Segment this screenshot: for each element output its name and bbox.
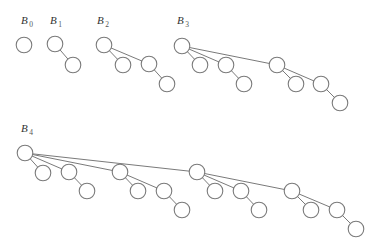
- tree-edge: [25, 153, 197, 172]
- tree-node: [233, 183, 249, 199]
- tree-node: [130, 183, 146, 199]
- tree-label-b4: B4: [21, 122, 33, 137]
- tree-node: [348, 221, 364, 237]
- tree-node: [115, 57, 131, 73]
- tree-label-subscript: 0: [29, 20, 33, 29]
- tree-node: [303, 202, 319, 218]
- tree-label-subscript: 4: [29, 128, 33, 137]
- tree-node: [284, 183, 300, 199]
- tree-node: [65, 57, 81, 73]
- tree-label-b0: B0: [21, 14, 33, 29]
- tree-label-b3: B3: [177, 14, 189, 29]
- tree-label-b2: B2: [97, 14, 109, 29]
- tree-node: [141, 56, 157, 72]
- tree-node: [35, 165, 51, 181]
- tree-node: [288, 76, 304, 92]
- tree-node: [189, 164, 205, 180]
- tree-b2-nodes: [96, 37, 175, 92]
- tree-root-node: [17, 145, 33, 161]
- tree-root-node: [174, 38, 190, 54]
- tree-node: [313, 76, 329, 92]
- tree-label-subscript: 1: [58, 20, 62, 29]
- tree-label-main: B: [21, 14, 28, 26]
- tree-b4-edges: [25, 153, 356, 229]
- tree-node: [112, 164, 128, 180]
- tree-root-node: [16, 37, 32, 53]
- tree-root-node: [96, 37, 112, 53]
- tree-node: [174, 202, 190, 218]
- tree-node: [236, 76, 252, 92]
- tree-b3-nodes: [174, 38, 348, 111]
- tree-node: [207, 183, 223, 199]
- tree-b4-nodes: [17, 145, 364, 237]
- tree-b2-edges: [104, 45, 167, 84]
- tree-node: [251, 202, 267, 218]
- tree-node: [79, 183, 95, 199]
- binomial-trees-diagram: B0B1B2B3B4: [0, 0, 378, 251]
- tree-label-subscript: 3: [185, 20, 189, 29]
- tree-b0-nodes: [16, 37, 32, 53]
- tree-node: [269, 57, 285, 73]
- tree-label-main: B: [97, 14, 104, 26]
- tree-node: [332, 95, 348, 111]
- tree-node: [61, 164, 77, 180]
- nodes-layer: [16, 36, 364, 237]
- tree-label-main: B: [21, 122, 28, 134]
- tree-node: [159, 76, 175, 92]
- tree-node: [329, 202, 345, 218]
- tree-root-node: [47, 36, 63, 52]
- tree-node: [192, 57, 208, 73]
- labels-layer: B0B1B2B3B4: [21, 14, 189, 137]
- tree-label-b1: B1: [50, 14, 62, 29]
- tree-b3-edges: [182, 46, 340, 103]
- tree-node: [218, 57, 234, 73]
- tree-label-subscript: 2: [105, 20, 109, 29]
- tree-node: [156, 183, 172, 199]
- tree-label-main: B: [177, 14, 184, 26]
- tree-label-main: B: [50, 14, 57, 26]
